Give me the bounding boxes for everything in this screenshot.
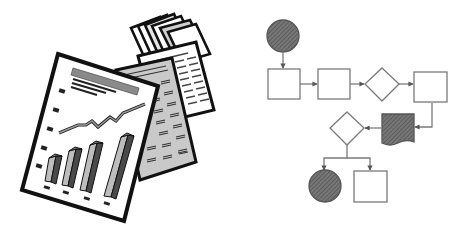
flowchart-process-box-3 [414, 72, 447, 102]
illustration [0, 0, 466, 235]
flowchart-diagram [267, 20, 447, 202]
report-papers-icon [22, 14, 214, 221]
branch-connector-left [324, 145, 347, 170]
branch-connector-right [347, 158, 370, 170]
flowchart-start-circle [267, 20, 299, 52]
flowchart-decision-diamond-2 [330, 112, 364, 145]
flowchart-decision-diamond-1 [365, 68, 399, 101]
flowchart-end-circle [309, 170, 341, 202]
flowchart-process-box-4 [354, 171, 387, 202]
flowchart-process-box-2 [318, 69, 350, 99]
front-report-sheet-icon [22, 54, 158, 221]
flowchart-process-box-1 [268, 69, 300, 99]
flowchart-document-shape [382, 114, 414, 145]
